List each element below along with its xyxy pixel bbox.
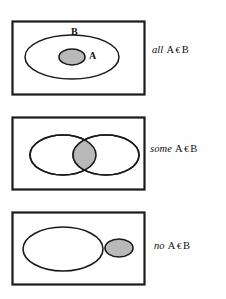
panel-all: B A: [0, 0, 226, 100]
caption-right-term: B: [182, 44, 189, 55]
set-label-a: A: [89, 50, 96, 61]
caption-quantifier: no: [154, 240, 165, 251]
caption-relation-symbol: €: [175, 241, 183, 251]
caption-right-term: B: [183, 240, 190, 251]
caption-some: someA€B: [150, 143, 197, 154]
set-label-b: B: [71, 26, 78, 37]
euler-diagram-figure: B A B A B A: [0, 0, 226, 299]
caption-quantifier: all: [152, 44, 163, 55]
caption-left-term: A: [166, 44, 174, 55]
caption-all: allA€B: [152, 44, 189, 55]
inner-ellipse-a: [59, 49, 85, 65]
panel-no: B A: [0, 196, 226, 299]
panel-no-graphic: [0, 196, 226, 299]
caption-no: noA€B: [154, 240, 190, 251]
panel-all-graphic: [0, 0, 226, 100]
ellipse-a: [105, 239, 133, 257]
caption-relation-symbol: €: [174, 45, 182, 55]
caption-left-term: A: [175, 143, 183, 154]
ellipse-b: [23, 227, 103, 271]
caption-quantifier: some: [150, 143, 172, 154]
caption-right-term: B: [190, 143, 197, 154]
